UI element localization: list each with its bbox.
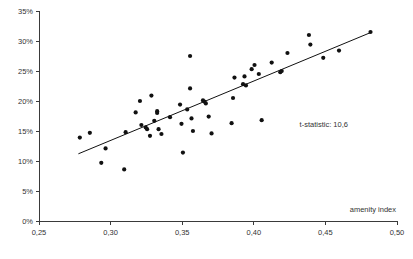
data-point <box>188 86 192 90</box>
chart-canvas: 0%5%10%15%20%25%30%35% 0,250,300,350,400… <box>0 0 413 259</box>
y-tick-label: 35% <box>18 7 33 16</box>
chart-text-labels: amenity indext-statistic: 10,6 <box>300 120 397 214</box>
data-point <box>308 43 312 47</box>
y-tick-label: 25% <box>18 67 33 76</box>
data-point <box>99 161 103 165</box>
data-point <box>307 33 311 37</box>
t-statistic-annotation: t-statistic: 10,6 <box>300 120 348 129</box>
data-point <box>178 103 182 107</box>
y-tick-label: 30% <box>18 37 33 46</box>
x-tick-label: 0,35 <box>175 228 190 237</box>
data-point <box>244 83 248 87</box>
data-point <box>168 115 172 119</box>
data-point <box>134 110 138 114</box>
data-point <box>257 72 261 76</box>
y-tick-label: 15% <box>18 127 33 136</box>
x-tick-label: 0,45 <box>318 228 333 237</box>
data-point <box>204 101 208 105</box>
x-tick-label: 0,30 <box>103 228 118 237</box>
data-point <box>179 122 183 126</box>
data-point <box>152 119 156 123</box>
data-point <box>207 115 211 119</box>
data-point <box>159 132 163 136</box>
data-point <box>124 130 128 134</box>
data-point <box>181 151 185 155</box>
data-point <box>122 167 126 171</box>
data-point <box>368 30 372 34</box>
data-point <box>139 123 143 127</box>
data-points-group <box>78 30 373 172</box>
y-tick-label: 5% <box>22 187 33 196</box>
data-point <box>155 111 159 115</box>
data-point <box>231 96 235 100</box>
data-point <box>138 99 142 103</box>
data-point <box>185 107 189 111</box>
data-point <box>242 74 246 78</box>
data-point <box>88 131 92 135</box>
y-tick-label: 10% <box>18 157 33 166</box>
data-point <box>280 69 284 73</box>
scatter-chart: 0%5%10%15%20%25%30%35% 0,250,300,350,400… <box>0 0 413 259</box>
data-point <box>232 76 236 80</box>
data-point <box>156 127 160 131</box>
data-point <box>270 61 274 65</box>
y-axis-ticks: 0%5%10%15%20%25%30%35% <box>18 7 39 226</box>
data-point <box>250 67 254 71</box>
data-point <box>209 131 213 135</box>
x-axis-title: amenity index <box>350 205 397 214</box>
x-axis-ticks: 0,250,300,350,400,450,50 <box>32 221 405 237</box>
data-point <box>145 127 149 131</box>
data-point <box>149 94 153 98</box>
regression-line <box>78 32 372 154</box>
x-tick-label: 0,50 <box>390 228 405 237</box>
data-point <box>260 118 264 122</box>
x-tick-label: 0,40 <box>246 228 261 237</box>
data-point <box>191 129 195 133</box>
axes <box>39 11 397 221</box>
data-point <box>337 49 341 53</box>
data-point <box>321 56 325 60</box>
data-point <box>189 116 193 120</box>
data-point <box>285 51 289 55</box>
y-tick-label: 20% <box>18 97 33 106</box>
data-point <box>252 63 256 67</box>
data-point <box>78 136 82 140</box>
data-point <box>230 121 234 125</box>
x-tick-label: 0,25 <box>32 228 47 237</box>
y-tick-label: 0% <box>22 217 33 226</box>
data-point <box>148 134 152 138</box>
data-point <box>103 146 107 150</box>
regression-line-group <box>78 32 372 154</box>
data-point <box>188 54 192 58</box>
